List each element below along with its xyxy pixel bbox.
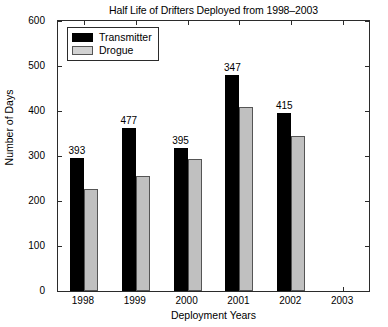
- y-tick-mark-right: [365, 246, 369, 247]
- y-tick-label: 300: [5, 151, 45, 161]
- x-tick-label: 2003: [312, 295, 372, 306]
- y-axis-label: Number of Days: [4, 53, 15, 203]
- bar-value-label: 347: [209, 62, 255, 73]
- y-tick-label: 200: [5, 196, 45, 206]
- plot-area: 0100200300400500600 393477395347415 Tran…: [57, 20, 370, 292]
- y-tick-label: 0: [5, 286, 45, 296]
- chart-title: Half Life of Drifters Deployed from 1998…: [57, 4, 370, 17]
- x-tick-mark-top: [188, 21, 189, 25]
- legend-swatch-transmitter-icon: [72, 33, 93, 42]
- bar-transmitter-1998: [70, 158, 84, 291]
- legend-item-transmitter: Transmitter: [72, 31, 152, 44]
- x-tick-mark-top: [343, 21, 344, 25]
- x-tick-mark-top: [84, 21, 85, 25]
- legend-label-drogue: Drogue: [99, 45, 133, 56]
- x-axis-label: Deployment Years: [57, 309, 370, 321]
- y-tick-mark-right: [365, 156, 369, 157]
- plot-inner: 0100200300400500600 393477395347415 Tran…: [58, 21, 369, 291]
- chart-legend: Transmitter Drogue: [67, 27, 159, 61]
- y-tick-mark: [58, 246, 62, 247]
- y-tick-mark-right: [365, 21, 369, 22]
- y-tick-label: 400: [5, 106, 45, 116]
- bar-transmitter-2000: [174, 148, 188, 291]
- y-tick-mark-right: [365, 66, 369, 67]
- bar-drogue-1998: [84, 189, 98, 291]
- bar-value-label: 395: [158, 135, 204, 146]
- bar-transmitter-2002: [277, 113, 291, 291]
- y-tick-mark-right: [365, 291, 369, 292]
- y-tick-mark: [58, 291, 62, 292]
- legend-label-transmitter: Transmitter: [99, 32, 152, 43]
- y-tick-mark-right: [365, 111, 369, 112]
- y-tick-mark: [58, 201, 62, 202]
- legend-item-drogue: Drogue: [72, 44, 152, 57]
- bar-transmitter-2001: [225, 75, 239, 291]
- bar-value-label: 393: [54, 145, 100, 156]
- chart-figure: Half Life of Drifters Deployed from 1998…: [0, 0, 388, 327]
- x-tick-mark: [343, 287, 344, 291]
- x-tick-mark-top: [291, 21, 292, 25]
- y-tick-mark: [58, 111, 62, 112]
- bar-value-label: 477: [106, 115, 152, 126]
- legend-swatch-drogue-icon: [72, 46, 93, 55]
- y-tick-label: 500: [5, 61, 45, 71]
- y-tick-mark: [58, 66, 62, 67]
- bar-drogue-2002: [291, 136, 305, 291]
- y-tick-mark: [58, 21, 62, 22]
- bar-drogue-2001: [239, 107, 253, 292]
- bar-value-label: 415: [261, 100, 307, 111]
- y-tick-label: 600: [5, 16, 45, 26]
- bar-transmitter-1999: [122, 128, 136, 291]
- y-tick-mark-right: [365, 201, 369, 202]
- bar-drogue-1999: [136, 176, 150, 291]
- bar-drogue-2000: [188, 159, 202, 291]
- x-tick-mark-top: [136, 21, 137, 25]
- x-tick-mark-top: [239, 21, 240, 25]
- y-tick-label: 100: [5, 241, 45, 251]
